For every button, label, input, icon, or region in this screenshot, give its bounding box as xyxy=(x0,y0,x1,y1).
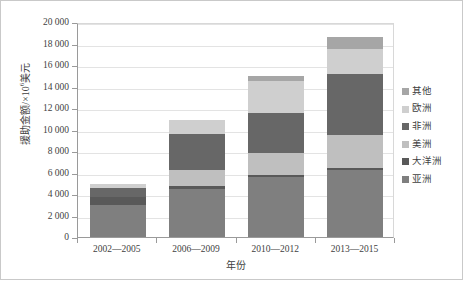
bar-segment xyxy=(327,135,383,168)
bar-segment xyxy=(90,188,146,198)
x-axis-title: 年份 xyxy=(77,260,394,271)
legend-item[interactable]: 其他 xyxy=(402,87,442,96)
x-axis-tick-label: 2013—2015 xyxy=(299,244,409,254)
y-axis-tick-label: 16 000 xyxy=(1,61,69,71)
y-axis-tick-label: 10 000 xyxy=(1,126,69,136)
bar-segment xyxy=(169,170,225,186)
y-axis-tick-label: 6 000 xyxy=(1,169,69,179)
gridline xyxy=(78,24,393,25)
plot-area xyxy=(77,23,394,238)
bar-segment xyxy=(327,170,383,237)
bar-segment xyxy=(248,175,304,177)
y-axis-tick-label: 20 000 xyxy=(1,18,69,28)
bar-segment xyxy=(248,76,304,81)
bar-segment xyxy=(248,177,304,237)
chart-legend: 其他欧洲非洲美洲大洋洲亚洲 xyxy=(402,87,442,193)
x-axis-tick-mark xyxy=(236,238,237,243)
legend-swatch-icon xyxy=(402,176,409,183)
bar-stack xyxy=(90,184,146,237)
x-axis-tick-mark xyxy=(315,238,316,243)
x-axis-tick-mark xyxy=(156,238,157,243)
bar-stack xyxy=(248,76,304,237)
bar-stack xyxy=(169,120,225,237)
x-axis-tick-mark xyxy=(77,238,78,243)
y-axis-tick-label: 8 000 xyxy=(1,147,69,157)
y-axis-title-text: 援助金额/×10 xyxy=(20,86,31,144)
bar-segment xyxy=(90,205,146,237)
legend-label: 亚洲 xyxy=(412,175,432,185)
legend-swatch-icon xyxy=(402,123,409,130)
bar-segment xyxy=(90,184,146,187)
legend-label: 欧洲 xyxy=(412,104,432,114)
bar-segment xyxy=(327,49,383,74)
bar-segment xyxy=(169,186,225,188)
bar-segment xyxy=(169,120,225,134)
bar-segment xyxy=(169,189,225,237)
y-axis-tick-label: 14 000 xyxy=(1,83,69,93)
bar-segment xyxy=(327,168,383,170)
legend-label: 美洲 xyxy=(412,140,432,150)
bar-segment xyxy=(327,37,383,49)
legend-item[interactable]: 大洋洲 xyxy=(402,157,442,166)
y-axis-tick-label: 0 xyxy=(1,233,69,243)
legend-swatch-icon xyxy=(402,158,409,165)
y-axis-tick-label: 2 000 xyxy=(1,212,69,222)
legend-label: 其他 xyxy=(412,87,432,97)
bar-segment xyxy=(327,74,383,135)
legend-item[interactable]: 美洲 xyxy=(402,140,442,149)
bar-segment xyxy=(248,113,304,153)
y-axis-tick-label: 18 000 xyxy=(1,40,69,50)
legend-item[interactable]: 欧洲 xyxy=(402,105,442,114)
y-axis-tick-label: 12 000 xyxy=(1,104,69,114)
bar-stack xyxy=(327,37,383,237)
legend-swatch-icon xyxy=(402,141,409,148)
y-axis-tick-label: 4 000 xyxy=(1,190,69,200)
legend-label: 非洲 xyxy=(412,122,432,132)
legend-item[interactable]: 非洲 xyxy=(402,122,442,131)
legend-swatch-icon xyxy=(402,106,409,113)
legend-swatch-icon xyxy=(402,88,409,95)
bar-segment xyxy=(248,153,304,175)
legend-label: 大洋洲 xyxy=(412,157,442,167)
bar-segment xyxy=(169,134,225,171)
legend-item[interactable]: 亚洲 xyxy=(402,175,442,184)
chart-frame: 援助金额/×106美元 20 00018 00016 00014 00012 0… xyxy=(0,0,463,280)
bar-segment xyxy=(248,81,304,113)
x-axis-tick-mark xyxy=(394,238,395,243)
bar-segment xyxy=(90,197,146,205)
